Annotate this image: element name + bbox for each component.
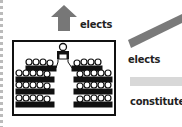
right-elects-label: elects bbox=[128, 53, 160, 66]
constitute-label: constitute bbox=[130, 95, 182, 108]
left-edge-decoration bbox=[0, 0, 3, 127]
top-elects-label: elects bbox=[80, 18, 112, 31]
up-arrow-icon bbox=[51, 5, 77, 31]
parliament-chamber-icon bbox=[12, 40, 116, 116]
constitute-bar bbox=[130, 77, 182, 86]
diagonal-elects-bar bbox=[128, 14, 182, 48]
